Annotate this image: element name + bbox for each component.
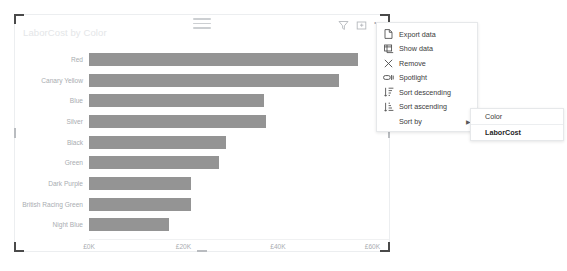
- submenu-item-laborcost[interactable]: LaborCost: [471, 125, 563, 140]
- export-data-icon: [382, 29, 395, 40]
- bar-night-blue[interactable]: [89, 218, 169, 231]
- menu-item-sort-by[interactable]: Sort by ▶: [377, 114, 477, 129]
- category-label: Silver: [15, 111, 87, 132]
- menu-item-sort-ascending[interactable]: Sort ascending: [377, 100, 477, 115]
- sort-ascending-icon: [382, 101, 395, 112]
- resize-handle-top-left[interactable]: [14, 14, 24, 24]
- bar-row: [89, 214, 389, 235]
- category-axis: Red Canary Yellow Blue Silver Black Gree…: [15, 49, 87, 235]
- bar-british-racing-green[interactable]: [89, 198, 191, 211]
- category-label: Blue: [15, 90, 87, 111]
- menu-item-label: Sort by: [399, 117, 462, 126]
- menu-item-label: Show data: [399, 44, 471, 53]
- page-title: LaborCost by Color: [23, 27, 107, 38]
- drag-handle-line: [193, 18, 211, 20]
- menu-item-sort-descending[interactable]: Sort descending: [377, 85, 477, 100]
- visual-context-menu: Export data Show data Remove Spotlight: [376, 22, 478, 132]
- bar-row: [89, 90, 389, 111]
- bar-row: [89, 111, 389, 132]
- menu-item-label: Remove: [399, 59, 471, 68]
- drag-handle-line: [193, 23, 211, 25]
- x-tick-label: £0K: [83, 243, 95, 250]
- bar-row: [89, 70, 389, 91]
- menu-item-spotlight[interactable]: Spotlight: [377, 71, 477, 86]
- bar-green[interactable]: [89, 156, 219, 169]
- bar-row: [89, 173, 389, 194]
- category-label: Dark Purple: [15, 173, 87, 194]
- remove-icon: [382, 58, 395, 69]
- submenu-item-label: Color: [485, 112, 502, 121]
- category-label: British Racing Green: [15, 194, 87, 215]
- bar-black[interactable]: [89, 136, 226, 149]
- category-label: Black: [15, 132, 87, 153]
- chart-visual-container[interactable]: ⋯ LaborCost by Color Red Canary Yellow B…: [14, 14, 390, 252]
- category-label: Canary Yellow: [15, 70, 87, 91]
- filter-icon[interactable]: [337, 19, 350, 32]
- menu-item-export-data[interactable]: Export data: [377, 27, 477, 42]
- x-tick-label: £40K: [270, 243, 285, 250]
- menu-item-show-data[interactable]: Show data: [377, 42, 477, 57]
- x-tick-label: £60K: [365, 243, 380, 250]
- menu-item-label: Sort ascending: [399, 102, 471, 111]
- bar-blue[interactable]: [89, 94, 264, 107]
- focus-mode-icon[interactable]: [355, 19, 368, 32]
- sort-descending-icon: [382, 87, 395, 98]
- sort-by-icon-placeholder: [382, 116, 395, 127]
- category-label: Night Blue: [15, 214, 87, 235]
- show-data-icon: [382, 43, 395, 54]
- menu-item-label: Export data: [399, 30, 471, 39]
- submenu-item-color[interactable]: Color: [471, 109, 563, 124]
- visual-drag-handle[interactable]: [193, 17, 211, 30]
- bar-canary-yellow[interactable]: [89, 74, 339, 87]
- bar-series: [89, 49, 389, 235]
- bar-row: [89, 132, 389, 153]
- menu-item-label: Spotlight: [399, 73, 471, 82]
- spotlight-icon: [382, 72, 395, 83]
- submenu-item-label: LaborCost: [485, 128, 521, 137]
- x-tick-label: £20K: [176, 243, 191, 250]
- drag-handle-line: [193, 27, 211, 29]
- value-axis: £0K £20K £40K £60K: [89, 239, 389, 253]
- bar-dark-purple[interactable]: [89, 177, 191, 190]
- menu-item-remove[interactable]: Remove: [377, 56, 477, 71]
- category-label: Green: [15, 152, 87, 173]
- bar-row: [89, 49, 389, 70]
- bar-row: [89, 152, 389, 173]
- plot-area: Red Canary Yellow Blue Silver Black Gree…: [15, 45, 391, 253]
- menu-item-label: Sort descending: [399, 88, 471, 97]
- bar-silver[interactable]: [89, 115, 266, 128]
- bar-row: [89, 194, 389, 215]
- sort-by-submenu: Color LaborCost: [470, 108, 564, 141]
- axis-line: [89, 239, 389, 240]
- bar-red[interactable]: [89, 53, 358, 66]
- category-label: Red: [15, 49, 87, 70]
